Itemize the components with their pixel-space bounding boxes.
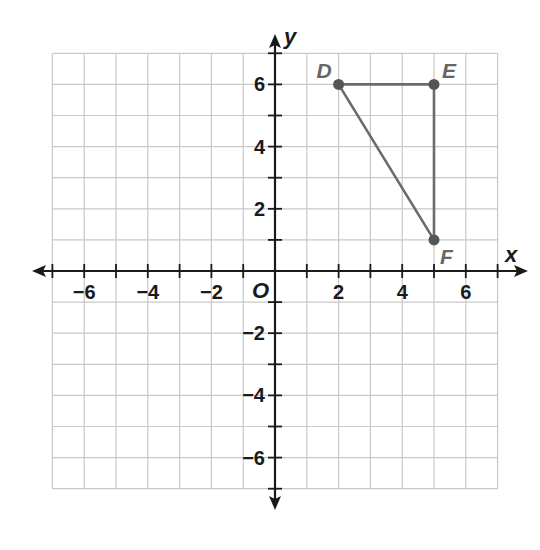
x-axis-label: x xyxy=(504,242,518,267)
x-tick-label: 6 xyxy=(460,281,471,303)
coordinate-plane: y x O −6−4−2246642−2−4−6 DEF xyxy=(0,0,540,550)
point-label-F: F xyxy=(440,245,454,268)
y-tick-label: 2 xyxy=(254,198,265,220)
y-tick-label: −2 xyxy=(242,322,265,344)
x-tick-label: −6 xyxy=(73,281,96,303)
x-tick-label: 2 xyxy=(333,281,344,303)
x-tick-label: −4 xyxy=(136,281,160,303)
point-label-D: D xyxy=(317,59,332,82)
y-axis-label: y xyxy=(283,24,298,49)
y-tick-label: 6 xyxy=(254,73,265,95)
point-D xyxy=(333,79,344,90)
y-tick-label: −4 xyxy=(242,384,266,406)
x-tick-label: −2 xyxy=(200,281,223,303)
y-tick-label: −6 xyxy=(242,447,265,469)
triangle-DEF xyxy=(339,84,434,240)
x-tick-label: 4 xyxy=(397,281,409,303)
triangle-edges xyxy=(339,84,434,240)
point-E xyxy=(429,79,440,90)
origin-label: O xyxy=(252,278,269,303)
y-tick-label: 4 xyxy=(254,136,266,158)
point-label-E: E xyxy=(442,59,457,82)
point-F xyxy=(429,234,440,245)
axes: y x O xyxy=(32,24,528,510)
